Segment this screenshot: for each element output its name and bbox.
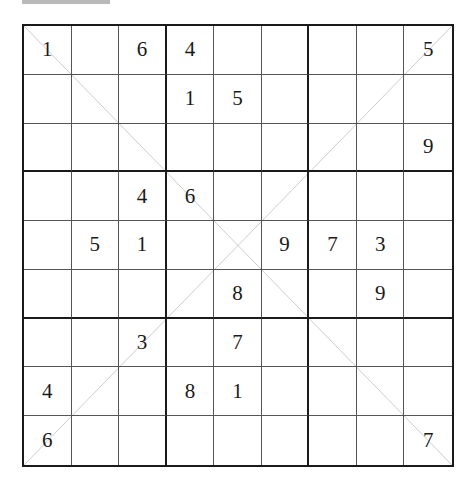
sudoku-cell[interactable] bbox=[357, 172, 405, 221]
sudoku-cell[interactable] bbox=[262, 319, 310, 368]
sudoku-cell[interactable] bbox=[357, 75, 405, 124]
sudoku-cell[interactable] bbox=[167, 319, 215, 368]
sudoku-cell[interactable] bbox=[214, 26, 262, 75]
sudoku-cell[interactable] bbox=[72, 270, 120, 319]
sudoku-cell[interactable]: 3 bbox=[357, 221, 405, 270]
sudoku-cell[interactable] bbox=[309, 270, 357, 319]
sudoku-cell[interactable]: 1 bbox=[119, 221, 167, 270]
sudoku-cell[interactable] bbox=[214, 221, 262, 270]
sudoku-cell[interactable] bbox=[24, 172, 72, 221]
sudoku-cell[interactable]: 3 bbox=[119, 319, 167, 368]
sudoku-cell[interactable]: 5 bbox=[404, 26, 452, 75]
sudoku-cell[interactable] bbox=[262, 26, 310, 75]
sudoku-cell[interactable] bbox=[404, 319, 452, 368]
sudoku-cell[interactable] bbox=[309, 75, 357, 124]
sudoku-cell[interactable]: 7 bbox=[309, 221, 357, 270]
sudoku-cell[interactable] bbox=[72, 416, 120, 465]
sudoku-cell[interactable] bbox=[24, 319, 72, 368]
sudoku-cell[interactable] bbox=[24, 75, 72, 124]
sudoku-cell[interactable]: 6 bbox=[119, 26, 167, 75]
sudoku-cell[interactable] bbox=[167, 124, 215, 173]
sudoku-cell[interactable] bbox=[72, 124, 120, 173]
sudoku-cell[interactable] bbox=[357, 319, 405, 368]
sudoku-cell[interactable]: 4 bbox=[24, 367, 72, 416]
sudoku-cell[interactable] bbox=[309, 172, 357, 221]
sudoku-cell[interactable] bbox=[119, 367, 167, 416]
sudoku-cell[interactable]: 5 bbox=[214, 75, 262, 124]
sudoku-board: 16451594651973893748167 bbox=[22, 24, 454, 467]
sudoku-cell[interactable] bbox=[119, 75, 167, 124]
sudoku-cell[interactable] bbox=[24, 270, 72, 319]
sudoku-cell[interactable] bbox=[262, 367, 310, 416]
sudoku-cell[interactable] bbox=[167, 221, 215, 270]
header-bar bbox=[22, 0, 110, 4]
sudoku-cell[interactable] bbox=[309, 124, 357, 173]
sudoku-cell[interactable] bbox=[404, 75, 452, 124]
sudoku-cell[interactable] bbox=[72, 26, 120, 75]
sudoku-cell[interactable] bbox=[72, 367, 120, 416]
sudoku-cell[interactable] bbox=[119, 124, 167, 173]
sudoku-cell[interactable]: 9 bbox=[262, 221, 310, 270]
sudoku-cell[interactable] bbox=[24, 221, 72, 270]
sudoku-cell[interactable]: 8 bbox=[214, 270, 262, 319]
sudoku-cell[interactable] bbox=[262, 416, 310, 465]
sudoku-cell[interactable] bbox=[357, 124, 405, 173]
sudoku-cell[interactable]: 6 bbox=[24, 416, 72, 465]
sudoku-cell[interactable] bbox=[357, 416, 405, 465]
sudoku-cell[interactable] bbox=[404, 172, 452, 221]
sudoku-cell[interactable]: 1 bbox=[214, 367, 262, 416]
sudoku-cell[interactable] bbox=[262, 172, 310, 221]
sudoku-cell[interactable]: 9 bbox=[404, 124, 452, 173]
sudoku-cell[interactable] bbox=[167, 270, 215, 319]
sudoku-cell[interactable]: 1 bbox=[24, 26, 72, 75]
sudoku-cell[interactable]: 9 bbox=[357, 270, 405, 319]
sudoku-cell[interactable] bbox=[404, 221, 452, 270]
sudoku-cell[interactable] bbox=[309, 367, 357, 416]
sudoku-cell[interactable] bbox=[357, 367, 405, 416]
sudoku-cell[interactable]: 1 bbox=[167, 75, 215, 124]
sudoku-cell[interactable] bbox=[72, 75, 120, 124]
sudoku-cell[interactable]: 5 bbox=[72, 221, 120, 270]
sudoku-cell[interactable]: 7 bbox=[404, 416, 452, 465]
sudoku-cell[interactable] bbox=[24, 124, 72, 173]
sudoku-cell[interactable] bbox=[119, 416, 167, 465]
sudoku-cell[interactable] bbox=[214, 416, 262, 465]
sudoku-cell[interactable]: 6 bbox=[167, 172, 215, 221]
sudoku-cell[interactable]: 4 bbox=[167, 26, 215, 75]
sudoku-cell[interactable] bbox=[214, 124, 262, 173]
sudoku-cell[interactable]: 7 bbox=[214, 319, 262, 368]
sudoku-cell[interactable] bbox=[309, 319, 357, 368]
sudoku-cell[interactable]: 4 bbox=[119, 172, 167, 221]
sudoku-cell[interactable] bbox=[262, 124, 310, 173]
sudoku-cell[interactable]: 8 bbox=[167, 367, 215, 416]
sudoku-cell[interactable] bbox=[262, 270, 310, 319]
sudoku-cell[interactable] bbox=[72, 172, 120, 221]
sudoku-cell[interactable] bbox=[404, 367, 452, 416]
sudoku-cell[interactable] bbox=[262, 75, 310, 124]
sudoku-cell[interactable] bbox=[404, 270, 452, 319]
sudoku-cell[interactable] bbox=[357, 26, 405, 75]
sudoku-cell[interactable] bbox=[309, 26, 357, 75]
sudoku-cell[interactable] bbox=[214, 172, 262, 221]
sudoku-grid: 16451594651973893748167 bbox=[24, 26, 452, 465]
sudoku-cell[interactable] bbox=[72, 319, 120, 368]
sudoku-cell[interactable] bbox=[309, 416, 357, 465]
sudoku-cell[interactable] bbox=[167, 416, 215, 465]
sudoku-cell[interactable] bbox=[119, 270, 167, 319]
